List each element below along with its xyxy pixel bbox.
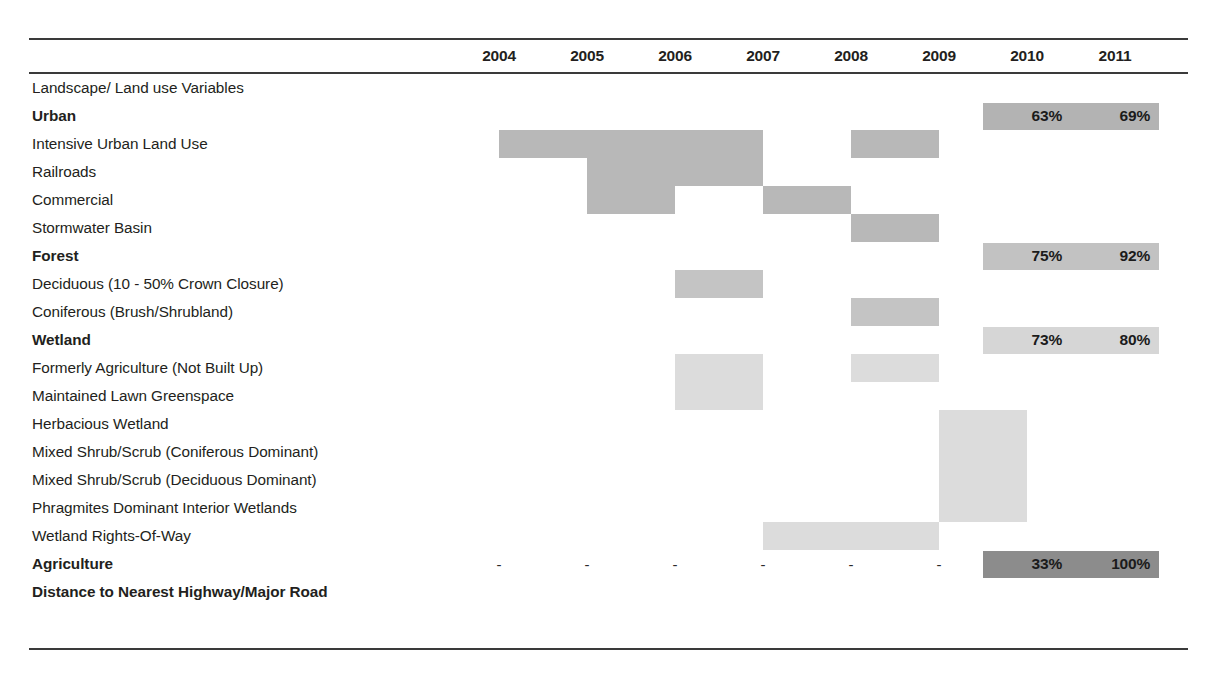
table-row: Coniferous (Brush/Shrubland): [29, 298, 1188, 326]
row-label: Landscape/ Land use Variables: [32, 74, 244, 102]
timeline-bar: [939, 466, 1027, 494]
timeline-bar: [763, 186, 851, 214]
row-label: Stormwater Basin: [32, 214, 152, 242]
row-label: Mixed Shrub/Scrub (Deciduous Dominant): [32, 466, 317, 494]
no-data-dash: -: [807, 550, 895, 578]
row-label: Commercial: [32, 186, 113, 214]
row-label: Phragmites Dominant Interior Wetlands: [32, 494, 297, 522]
table-row: Phragmites Dominant Interior Wetlands: [29, 494, 1188, 522]
row-label: Agriculture: [32, 550, 113, 578]
table-row: Deciduous (10 - 50% Crown Closure): [29, 270, 1188, 298]
row-label: Railroads: [32, 158, 96, 186]
table-row: Formerly Agriculture (Not Built Up): [29, 354, 1188, 382]
table-header-row: 20042005200620072008200920102011: [29, 40, 1188, 72]
table-row: Stormwater Basin: [29, 214, 1188, 242]
timeline-bar: [675, 354, 763, 382]
table-row: Maintained Lawn Greenspace: [29, 382, 1188, 410]
row-label: Mixed Shrub/Scrub (Coniferous Dominant): [32, 438, 318, 466]
column-header-2008: 2008: [807, 40, 895, 72]
timeline-bar: [851, 214, 939, 242]
percent-value-2010: 73%: [983, 327, 1071, 354]
timeline-bar: [939, 410, 1027, 438]
row-label: Wetland: [32, 326, 91, 354]
table-row: Mixed Shrub/Scrub (Coniferous Dominant): [29, 438, 1188, 466]
timeline-bar: [675, 382, 763, 410]
percent-value-2011: 92%: [1071, 243, 1159, 270]
no-data-dash: -: [631, 550, 719, 578]
no-data-dash: -: [719, 550, 807, 578]
percent-value-2010: 63%: [983, 103, 1071, 130]
table-row: Forest75%92%: [29, 242, 1188, 270]
table-bottom-rule: [29, 648, 1188, 650]
row-label: Herbacious Wetland: [32, 410, 169, 438]
no-data-dash: -: [895, 550, 983, 578]
row-label: Intensive Urban Land Use: [32, 130, 208, 158]
table-row: Distance to Nearest Highway/Major Road: [29, 578, 1188, 606]
table-row: Herbacious Wetland: [29, 410, 1188, 438]
column-header-2006: 2006: [631, 40, 719, 72]
row-label: Coniferous (Brush/Shrubland): [32, 298, 233, 326]
percent-band: 73%80%: [983, 327, 1159, 354]
timeline-bar: [851, 130, 939, 158]
column-header-2004: 2004: [455, 40, 543, 72]
row-label: Maintained Lawn Greenspace: [32, 382, 234, 410]
table-row: Railroads: [29, 158, 1188, 186]
percent-value-2011: 80%: [1071, 327, 1159, 354]
table-row: Wetland73%80%: [29, 326, 1188, 354]
table-row: Mixed Shrub/Scrub (Deciduous Dominant): [29, 466, 1188, 494]
table-row: Urban63%69%: [29, 102, 1188, 130]
timeline-bar: [939, 494, 1027, 522]
percent-value-2011: 100%: [1071, 551, 1159, 578]
column-header-2005: 2005: [543, 40, 631, 72]
percent-value-2010: 75%: [983, 243, 1071, 270]
row-label: Wetland Rights-Of-Way: [32, 522, 191, 550]
table-row: Agriculture------33%100%: [29, 550, 1188, 578]
table-row: Intensive Urban Land Use: [29, 130, 1188, 158]
timeline-bar: [851, 354, 939, 382]
column-header-2009: 2009: [895, 40, 983, 72]
column-header-2007: 2007: [719, 40, 807, 72]
timeline-bar: [587, 158, 763, 186]
table-row: Landscape/ Land use Variables: [29, 74, 1188, 102]
timeline-bar: [587, 186, 675, 214]
no-data-dash: -: [455, 550, 543, 578]
timeline-bar: [675, 270, 763, 298]
table-row: Wetland Rights-Of-Way: [29, 522, 1188, 550]
row-label: Deciduous (10 - 50% Crown Closure): [32, 270, 284, 298]
percent-value-2011: 69%: [1071, 103, 1159, 130]
row-label: Forest: [32, 242, 78, 270]
percent-value-2010: 33%: [983, 551, 1071, 578]
data-table: 20042005200620072008200920102011 Landsca…: [29, 38, 1188, 650]
column-header-2011: 2011: [1071, 40, 1159, 72]
timeline-bar: [763, 522, 939, 550]
percent-band: 75%92%: [983, 243, 1159, 270]
column-header-2010: 2010: [983, 40, 1071, 72]
timeline-bar: [499, 130, 763, 158]
percent-band: 33%100%: [983, 551, 1159, 578]
percent-band: 63%69%: [983, 103, 1159, 130]
row-label: Formerly Agriculture (Not Built Up): [32, 354, 263, 382]
table-row: Commercial: [29, 186, 1188, 214]
row-label: Distance to Nearest Highway/Major Road: [32, 578, 328, 606]
no-data-dash: -: [543, 550, 631, 578]
timeline-bar: [851, 298, 939, 326]
table-body: Landscape/ Land use VariablesUrban63%69%…: [29, 74, 1188, 648]
row-label: Urban: [32, 102, 76, 130]
timeline-bar: [939, 438, 1027, 466]
